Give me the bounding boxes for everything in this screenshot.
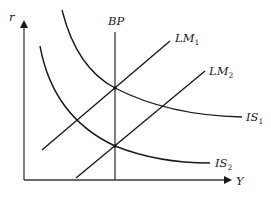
equilibrium-point-1 — [113, 86, 117, 90]
equilibrium-point-2 — [113, 144, 117, 148]
bp-label: BP — [107, 14, 124, 28]
is-lm-bp-diagram: r Y BP IS1 IS2 LM1 LM2 — [0, 0, 271, 207]
x-axis-label: Y — [236, 174, 245, 188]
is2-label: IS2 — [214, 156, 232, 172]
y-axis-label: r — [9, 10, 16, 24]
lm1-label: LM1 — [174, 31, 199, 47]
is1-label: IS1 — [245, 110, 263, 126]
lm1-curve — [42, 41, 170, 150]
lm2-label: LM2 — [208, 64, 233, 80]
is2-curve — [40, 46, 210, 163]
